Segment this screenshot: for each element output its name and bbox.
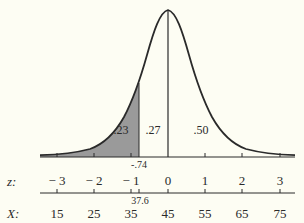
boundary-x-label: 37.6 [131, 196, 149, 206]
z-axis-name: z: [7, 175, 16, 188]
z-tick-label: − 2 [85, 174, 102, 187]
x-tick-label: 55 [199, 207, 212, 220]
area-label-left-tail: .23 [114, 124, 129, 136]
x-tick-label: 25 [88, 207, 101, 220]
x-axis-name: X: [7, 207, 19, 220]
x-tick-label: 35 [125, 207, 138, 220]
x-tick-label: 15 [51, 207, 64, 220]
curve-graphic [0, 0, 304, 223]
z-tick-label: 1 [202, 174, 209, 187]
boundary-z-label: -.74 [131, 160, 147, 170]
z-tick-label: − 3 [48, 174, 65, 187]
z-tick-label: 2 [239, 174, 246, 187]
z-tick-label: 0 [165, 174, 172, 187]
normal-curve-diagram: .23 .27 .50 -.74 z: − 3 − 2 − 1 0 1 2 3 … [0, 0, 304, 223]
x-tick-label: 65 [236, 207, 249, 220]
area-label-middle: .27 [146, 124, 161, 136]
z-tick-label: − 1 [122, 174, 139, 187]
scale-axis-ticks [57, 189, 280, 193]
area-label-right-half: .50 [194, 124, 209, 136]
shaded-tail-region [40, 83, 139, 157]
z-tick-label: 3 [277, 174, 284, 187]
x-tick-label: 75 [274, 207, 287, 220]
x-tick-label: 45 [162, 207, 175, 220]
